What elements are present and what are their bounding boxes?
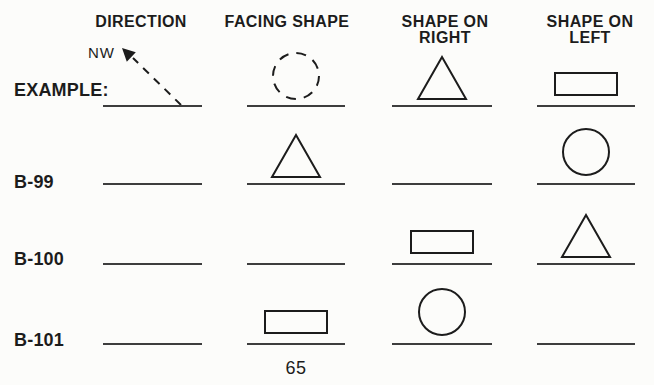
column-header-line: FACING SHAPE xyxy=(225,14,350,30)
answer-cell-b101-facing-shape xyxy=(247,279,345,345)
answer-cell-b100-shape-on-right xyxy=(392,199,492,265)
answer-cell-b100-facing-shape xyxy=(247,199,345,265)
page-number: 65 xyxy=(285,358,306,379)
answer-cell-example-shape-on-right xyxy=(392,41,492,107)
rectangle-shape xyxy=(410,230,474,254)
row-label-b101: B-101 xyxy=(14,330,64,351)
answer-cell-b99-direction xyxy=(103,119,202,185)
answer-cell-b101-shape-on-right xyxy=(392,279,492,345)
row-label-example: EXAMPLE: xyxy=(14,80,109,101)
answer-cell-b101-direction xyxy=(103,279,202,345)
column-header-facing-shape: FACING SHAPE xyxy=(225,14,350,30)
nw-arrow-icon xyxy=(103,43,202,105)
triangle-shape xyxy=(416,55,468,101)
row-label-b100: B-100 xyxy=(14,249,64,270)
direction-label-nw: NW xyxy=(88,44,115,61)
circle-shape xyxy=(417,287,467,337)
answer-cell-example-facing-shape xyxy=(247,41,345,107)
rectangle-shape xyxy=(554,72,618,96)
answer-cell-example-shape-on-left xyxy=(537,41,635,107)
rectangle-shape xyxy=(264,310,328,334)
answer-cell-b100-shape-on-left xyxy=(537,199,635,265)
worksheet-page: DIRECTION FACING SHAPE SHAPE ON RIGHT SH… xyxy=(0,0,654,385)
answer-cell-b99-shape-on-left xyxy=(537,119,635,185)
column-header-line: SHAPE ON xyxy=(547,14,634,30)
answer-cell-example-direction: NW xyxy=(103,41,202,107)
dashed-circle-shape xyxy=(271,51,321,101)
row-label-b99: B-99 xyxy=(14,172,54,193)
answer-cell-b99-facing-shape xyxy=(247,119,345,185)
column-header-line: DIRECTION xyxy=(95,14,187,30)
answer-cell-b101-shape-on-left xyxy=(537,279,635,345)
circle-shape xyxy=(561,127,611,177)
column-header-direction: DIRECTION xyxy=(95,14,187,30)
column-header-line: SHAPE ON xyxy=(402,14,489,30)
triangle-shape xyxy=(270,133,322,179)
answer-cell-b99-shape-on-right xyxy=(392,119,492,185)
triangle-shape xyxy=(560,213,612,259)
answer-cell-b100-direction xyxy=(103,199,202,265)
